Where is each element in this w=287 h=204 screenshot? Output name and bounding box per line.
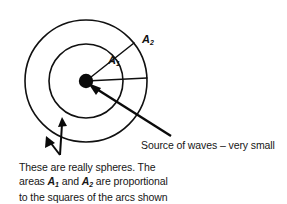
spheres-note-line-2-mid: and: [59, 175, 82, 187]
area-label-a1-letter: A: [108, 54, 116, 66]
spheres-note-line-2-suffix: are proportional: [93, 175, 168, 187]
spheres-note-a2-subscript: 2: [89, 181, 93, 188]
area-label-a2-letter: A: [142, 33, 150, 45]
area-label-a2: A2: [142, 33, 154, 45]
spheres-note-line-2: areas A1 and A2 are proportional: [19, 174, 168, 190]
inner-circle-leader-line: [60, 124, 62, 155]
spheres-note-line-2-prefix: areas: [19, 175, 48, 187]
spheres-note-a1-subscript: 1: [55, 181, 59, 188]
spheres-note-a2: A2: [82, 175, 93, 187]
spheres-note-line-3: to the squares of the arcs shown: [19, 190, 168, 204]
area-label-a2-subscript: 2: [150, 39, 154, 46]
spheres-note-a1: A1: [48, 175, 59, 187]
spheres-note-a1-letter: A: [48, 175, 55, 187]
source-of-waves-caption: Source of waves – very small: [141, 139, 275, 152]
spheres-note-line-1: These are really spheres. The: [19, 160, 168, 174]
area-label-a1: A1: [108, 54, 120, 66]
inner-circle-leader-arrowhead: [58, 117, 67, 127]
spheres-note-caption: These are really spheres. The areas A1 a…: [19, 160, 168, 204]
source-leader-arrowhead: [88, 83, 101, 95]
figure-root: A2 A1 Source of waves – very small These…: [0, 0, 287, 204]
area-label-a1-subscript: 1: [116, 60, 120, 67]
sector-radial-line-lower: [86, 78, 147, 81]
